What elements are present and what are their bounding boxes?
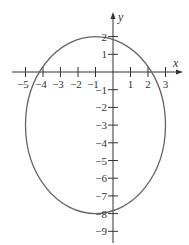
ellipse-chart: −5 −4 −3 −2 −1 1 2 3 2 1 −1 −2 −3 −4 −5 …	[0, 0, 189, 245]
x-axis-label: x	[172, 56, 179, 70]
svg-text:−3: −3	[95, 119, 107, 131]
svg-text:3: 3	[163, 78, 169, 90]
svg-text:−1: −1	[95, 84, 107, 96]
svg-text:−3: −3	[52, 78, 64, 90]
y-tick-labels: 2 1 −1 −2 −3 −4 −5 −6 −7 −8 −9	[95, 31, 107, 238]
svg-text:−8: −8	[95, 208, 107, 220]
svg-text:−5: −5	[95, 155, 107, 167]
svg-text:−7: −7	[95, 190, 107, 202]
svg-text:−2: −2	[70, 78, 82, 90]
svg-text:−2: −2	[95, 101, 107, 113]
svg-text:−4: −4	[35, 78, 47, 90]
svg-text:−9: −9	[95, 225, 107, 237]
svg-text:1: 1	[128, 78, 134, 90]
svg-text:−5: −5	[17, 78, 29, 90]
svg-text:−6: −6	[95, 172, 107, 184]
x-axis-arrow-icon	[176, 70, 183, 75]
x-tick-labels: −5 −4 −3 −2 −1 1 2 3	[17, 78, 169, 90]
svg-text:2: 2	[145, 78, 151, 90]
svg-text:−4: −4	[95, 137, 107, 149]
y-axis-arrow-icon	[111, 12, 116, 19]
y-axis-label: y	[117, 10, 124, 24]
svg-text:2: 2	[102, 31, 108, 43]
svg-text:1: 1	[102, 48, 108, 60]
